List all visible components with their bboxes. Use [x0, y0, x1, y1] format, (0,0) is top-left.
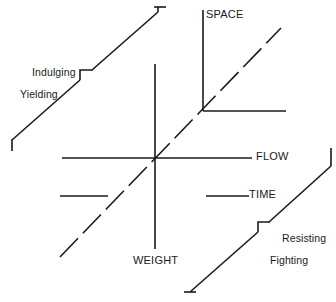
flow-axis-label: FLOW	[256, 151, 289, 163]
indulging-label-line2: Yielding	[20, 89, 76, 100]
resisting-label-line2: Fighting	[270, 255, 326, 266]
space-axis-label: SPACE	[206, 9, 243, 21]
indulging-notch	[80, 70, 93, 80]
time-axis	[60, 28, 281, 257]
resisting-zone-label: Resisting Fighting	[270, 222, 326, 288]
resisting-upper-diagonal	[269, 166, 331, 222]
resisting-notch	[258, 222, 270, 232]
indulging-upper-diagonal	[92, 12, 158, 70]
weight-axis-label: WEIGHT	[133, 255, 178, 267]
resisting-lower-diagonal	[190, 232, 258, 292]
indulging-zone-label: Indulging Yielding	[20, 56, 76, 122]
resisting-label-line1: Resisting	[282, 232, 326, 244]
time-axis-label: TIME	[249, 189, 276, 201]
time-dashed-diagonal	[60, 28, 281, 257]
indulging-label-line1: Indulging	[32, 66, 76, 78]
effort-axes-diagram: SPACE FLOW TIME WEIGHT Indulging Yieldin…	[0, 0, 336, 302]
